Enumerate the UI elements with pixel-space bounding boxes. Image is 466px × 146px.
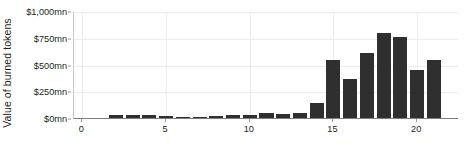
bar — [427, 60, 441, 118]
bar — [410, 70, 424, 118]
y-tick-mark — [68, 12, 71, 13]
y-tick-label: $250mn — [34, 87, 67, 97]
x-tick-mark — [165, 119, 166, 122]
bar — [377, 33, 391, 118]
bar — [193, 117, 207, 118]
bar — [243, 115, 257, 118]
y-tick-label: $0mn — [44, 114, 67, 124]
bar — [209, 116, 223, 118]
y-tick-mark — [68, 119, 71, 120]
bar — [226, 115, 240, 118]
x-tick-mark — [81, 119, 82, 122]
bar — [360, 53, 374, 118]
bar — [310, 103, 324, 119]
x-tick-mark — [332, 119, 333, 122]
y-tick-mark — [68, 65, 71, 66]
bar — [259, 113, 273, 118]
x-tick-mark — [416, 119, 417, 122]
y-tick-mark — [68, 38, 71, 39]
x-tick-label: 0 — [79, 124, 84, 134]
bar-chart: Value of burned tokens $0mn$250mn$500mn$… — [0, 0, 466, 146]
bars-group — [74, 12, 458, 118]
bar — [343, 79, 357, 118]
y-tick-label: $750mn — [34, 34, 67, 44]
y-axis-tick-labels: $0mn$250mn$500mn$750mn$1,000mn — [14, 0, 71, 146]
x-axis-tick-labels: 05101520 — [73, 119, 458, 146]
x-tick-mark — [249, 119, 250, 122]
plot-area — [73, 12, 458, 119]
x-tick-label: 5 — [163, 124, 168, 134]
bar — [176, 117, 190, 118]
bar — [126, 115, 140, 118]
y-tick-mark — [68, 92, 71, 93]
x-tick-label: 15 — [327, 124, 337, 134]
bar — [276, 114, 290, 118]
x-tick-label: 10 — [244, 124, 254, 134]
bar — [293, 113, 307, 118]
x-tick-label: 20 — [411, 124, 421, 134]
bar — [109, 115, 123, 118]
y-tick-label: $500mn — [34, 61, 67, 71]
y-tick-label: $1,000mn — [26, 7, 67, 17]
bar — [393, 37, 407, 118]
y-axis-title: Value of burned tokens — [0, 0, 14, 146]
bar — [326, 60, 340, 118]
bar — [159, 116, 173, 118]
bar — [142, 115, 156, 118]
